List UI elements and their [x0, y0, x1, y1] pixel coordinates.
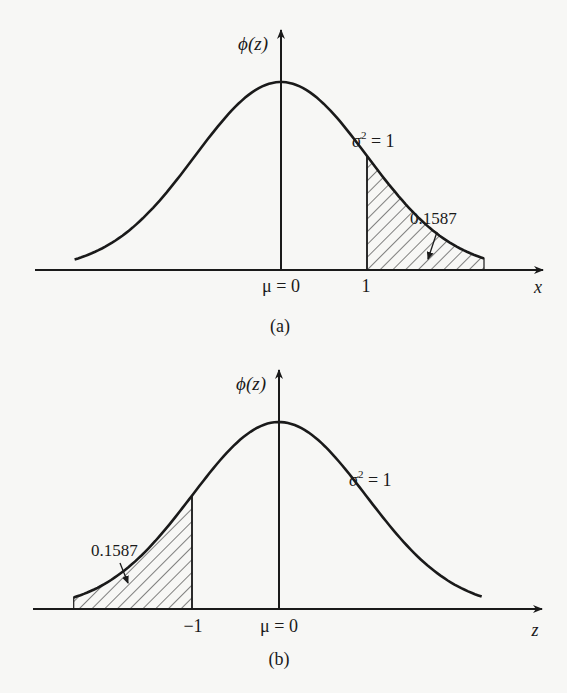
x-axis-label: z: [530, 620, 538, 640]
normal-distribution-figure: ϕ(z) x σ2 = 1 μ = 0 1 0.1587 (a) ϕ(z) z …: [0, 0, 567, 693]
panel-caption: (a): [270, 316, 290, 337]
area-annotation: 0.1587: [410, 209, 457, 228]
variance-label: σ2 = 1: [349, 468, 392, 490]
tick-label-mean: μ = 0: [260, 616, 298, 636]
x-axis-label: x: [533, 277, 542, 297]
panel-caption: (b): [269, 649, 290, 670]
y-axis-label: ϕ(z): [236, 373, 266, 395]
panel-a: ϕ(z) x σ2 = 1 μ = 0 1 0.1587 (a): [35, 30, 543, 337]
tick-label-neg-one: −1: [183, 616, 202, 636]
y-axis-label: ϕ(z): [238, 33, 268, 55]
tick-label-mean: μ = 0: [262, 276, 300, 296]
tick-label-one: 1: [362, 276, 371, 296]
panel-b: ϕ(z) z σ2 = 1 −1 μ = 0 0.1587 (b): [33, 370, 542, 670]
variance-label: σ2 = 1: [352, 129, 395, 151]
area-annotation: 0.1587: [91, 541, 138, 560]
